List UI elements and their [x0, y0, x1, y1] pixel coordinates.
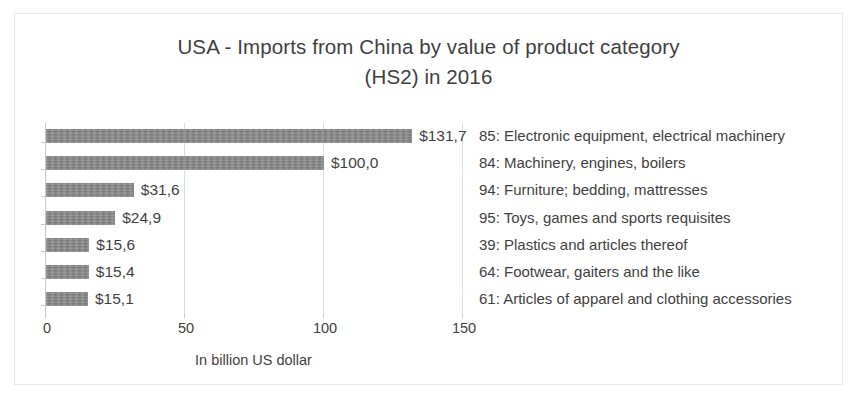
bar[interactable] [46, 292, 88, 306]
x-axis-title: In billion US dollar [45, 352, 462, 368]
plot-area: $131,7$100,0$31,6$24,9$15,6$15,4$15,1 05… [45, 123, 462, 314]
category-label: 94: Furniture; bedding, mattresses [479, 180, 707, 200]
x-tick-mark-150 [462, 314, 463, 318]
bar-value-label: $15,4 [96, 262, 135, 282]
bar-value-label: $100,0 [331, 153, 378, 173]
bar-row[interactable]: $24,9 [46, 211, 463, 225]
bar-value-label: $131,7 [419, 126, 466, 146]
category-label: 95: Toys, games and sports requisites [479, 208, 731, 228]
bar[interactable] [46, 129, 412, 143]
x-tick-mark-50 [184, 314, 185, 318]
x-tick-label-100: 100 [313, 319, 337, 337]
bar[interactable] [46, 183, 134, 197]
x-tick-mark-100 [323, 314, 324, 318]
bar-value-label: $24,9 [122, 208, 161, 228]
category-label: 64: Footwear, gaiters and the like [479, 262, 700, 282]
chart-title: USA - Imports from China by value of pro… [15, 32, 842, 92]
chart-card: USA - Imports from China by value of pro… [14, 13, 843, 385]
bar[interactable] [46, 156, 324, 170]
bar-row[interactable]: $31,6 [46, 183, 463, 197]
category-label: 84: Machinery, engines, boilers [479, 153, 686, 173]
bar-value-label: $15,6 [96, 235, 135, 255]
bar-value-label: $31,6 [141, 180, 180, 200]
x-tick-mark-0 [45, 314, 46, 318]
bar-row[interactable]: $100,0 [46, 156, 463, 170]
bar-row[interactable]: $15,6 [46, 238, 463, 252]
y-tick-mark [41, 278, 45, 279]
bar-row[interactable]: $131,7 [46, 129, 463, 143]
x-tick-label-150: 150 [452, 319, 476, 337]
chart-title-line-2: (HS2) in 2016 [15, 62, 842, 92]
x-tick-label-0: 0 [43, 319, 51, 337]
bar-row[interactable]: $15,1 [46, 292, 463, 306]
bar[interactable] [46, 238, 89, 252]
category-label: 61: Articles of apparel and clothing acc… [479, 289, 792, 309]
bar-row[interactable]: $15,4 [46, 265, 463, 279]
bar-value-label: $15,1 [95, 289, 134, 309]
bar[interactable] [46, 265, 89, 279]
y-tick-mark [41, 305, 45, 306]
chart-title-line-1: USA - Imports from China by value of pro… [15, 32, 842, 62]
x-tick-label-50: 50 [178, 319, 194, 337]
y-tick-mark [41, 196, 45, 197]
y-tick-mark [41, 169, 45, 170]
category-label: 85: Electronic equipment, electrical mac… [479, 126, 785, 146]
y-tick-mark [41, 224, 45, 225]
y-tick-mark [41, 251, 45, 252]
bar[interactable] [46, 211, 115, 225]
y-tick-mark [41, 142, 45, 143]
category-label: 39: Plastics and articles thereof [479, 235, 687, 255]
